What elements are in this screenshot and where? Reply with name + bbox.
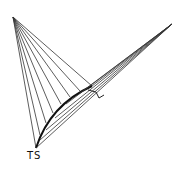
ts-label: TS xyxy=(27,150,41,161)
ruled-surface-diagram xyxy=(0,0,179,171)
fan-lines xyxy=(13,17,92,148)
sweep-lines xyxy=(36,24,172,148)
